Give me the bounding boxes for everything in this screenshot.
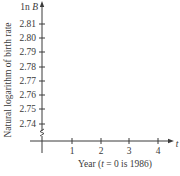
y-tick-label: 2.74 <box>19 119 36 129</box>
y-tick-label: 2.75 <box>19 104 36 114</box>
x-axis-variable-label: t <box>176 139 179 149</box>
y-axis-arrow-icon <box>40 1 44 7</box>
x-axis-title: Year (t = 0 is 1986) <box>78 159 152 170</box>
y-tick-labels: 2.81 2.80 2.79 2.78 2.77 2.76 2.75 2.74 <box>19 19 36 129</box>
x-tick-labels: 1 2 3 4 <box>70 146 161 156</box>
y-tick-label: 2.81 <box>19 19 36 29</box>
y-axis-variable-label: 1n B <box>20 2 38 12</box>
y-tick-label: 2.77 <box>19 76 36 86</box>
y-tick-label: 2.76 <box>19 90 36 100</box>
x-tick-label: 4 <box>156 146 161 156</box>
x-tick-label: 3 <box>127 146 132 156</box>
y-tick-label: 2.80 <box>19 33 36 43</box>
y-tick-label: 2.78 <box>19 62 36 72</box>
y-tick-label: 2.79 <box>19 47 36 57</box>
x-tick-label: 1 <box>70 146 75 156</box>
y-axis-title: Natural logarithm of birth rate <box>3 22 13 137</box>
x-axis-arrow-icon <box>168 139 174 143</box>
x-tick-label: 2 <box>99 146 104 156</box>
axis-break-icon <box>40 129 44 136</box>
chart-canvas: 2.81 2.80 2.79 2.78 2.77 2.76 2.75 2.74 … <box>0 0 180 176</box>
